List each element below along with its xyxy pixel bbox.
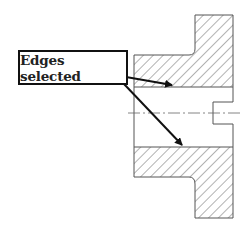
drawing-svg (0, 0, 248, 232)
bore-outline (134, 87, 233, 147)
section-drawing: Edges selected (0, 0, 248, 232)
callout-text: Edges selected (20, 52, 126, 84)
lower-section-hatched (134, 147, 233, 218)
upper-section-hatched (134, 15, 233, 87)
arrow-lower-edge (124, 84, 182, 145)
callout-label: Edges selected (18, 50, 128, 85)
